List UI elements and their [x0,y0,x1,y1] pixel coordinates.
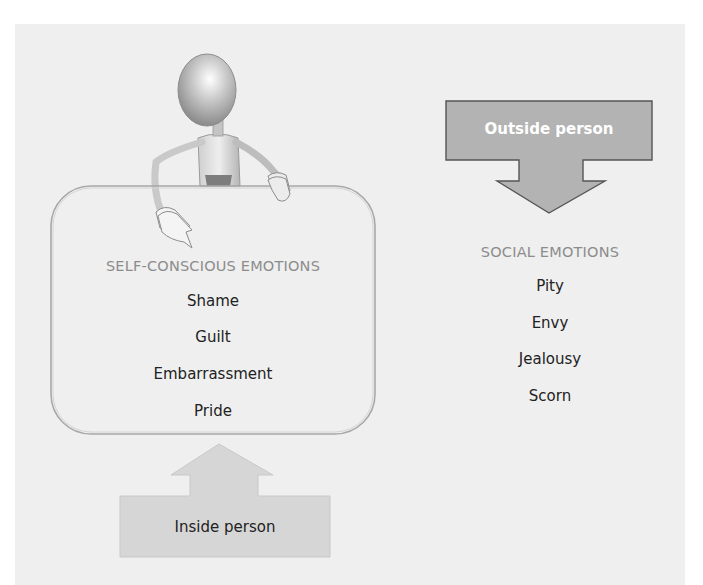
self-conscious-box [51,186,375,434]
outside-person-arrow [446,101,652,213]
social-heading: SOCIAL EMOTIONS [460,244,640,260]
self-conscious-heading: SELF-CONSCIOUS EMOTIONS [51,258,375,274]
social-item: Envy [460,314,640,332]
social-item: Jealousy [460,350,640,368]
self-conscious-item: Pride [51,402,375,420]
inside-person-arrow [120,444,330,557]
social-item: Pity [460,277,640,295]
self-conscious-item: Guilt [51,328,375,346]
inside-person-label: Inside person [120,518,330,536]
social-item: Scorn [460,387,640,405]
self-conscious-item: Embarrassment [51,365,375,383]
self-conscious-item: Shame [51,292,375,310]
outside-person-label: Outside person [446,120,652,138]
